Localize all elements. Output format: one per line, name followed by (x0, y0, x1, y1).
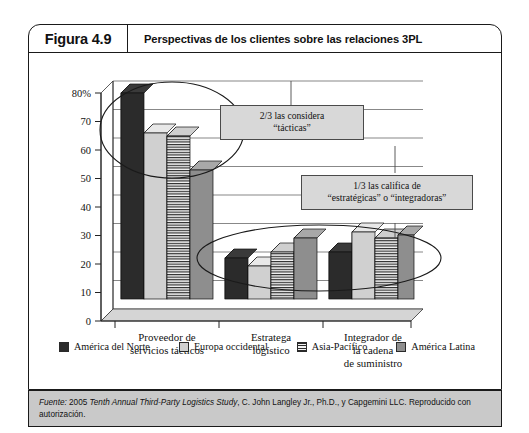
legend-item-america-latina: América Latina (396, 341, 475, 352)
svg-text:70: 70 (81, 116, 92, 127)
svg-text:10: 10 (81, 287, 92, 298)
svg-text:40: 40 (81, 202, 92, 213)
legend-swatch-hatch-icon (297, 342, 307, 352)
figure-title: Perspectivas de los clientes sobre las r… (144, 33, 422, 45)
figure-card: Figura 4.9 Perspectivas de los clientes … (28, 24, 502, 390)
legend-label-america-latina: América Latina (411, 341, 475, 352)
legend-label-america-del-norte: América del Norte (74, 341, 150, 352)
callout-tactical-line1: 2/3 las considera (229, 110, 355, 122)
svg-text:50: 50 (81, 173, 92, 184)
figure-number-label: Figura 4.9 (45, 31, 112, 47)
source-year: 2005 (69, 398, 87, 407)
legend-swatch-light-icon (179, 342, 189, 352)
svg-text:60: 60 (81, 145, 92, 156)
y-axis: 80% 70 60 50 40 30 20 10 0 (72, 88, 101, 327)
svg-text:0: 0 (86, 316, 91, 327)
figure-number-cell: Figura 4.9 (29, 25, 128, 52)
svg-text:20: 20 (81, 259, 92, 270)
legend-label-asia-pacifico: Asia-Pacífico (312, 341, 367, 352)
svg-text:80%: 80% (72, 88, 92, 99)
svg-text:30: 30 (81, 230, 92, 241)
figure-source-note: Fuente: 2005 Tenth Annual Third-Party Lo… (28, 390, 502, 427)
x-axis-ticks (115, 321, 411, 328)
callout-strategic-line2: “estratégicas” o “integradoras” (310, 192, 464, 204)
legend-swatch-dark-icon (59, 342, 69, 352)
chart-body: 80% 70 60 50 40 30 20 10 0 (29, 53, 501, 392)
svg-text:de suministro: de suministro (344, 357, 402, 369)
legend-swatch-medium-icon (396, 342, 406, 352)
chart-legend: América del Norte Europa occidental Asia… (59, 341, 475, 352)
callout-tactical: 2/3 las considera “tácticas” (220, 105, 364, 140)
callout-strategic: 1/3 las califica de “estratégicas” o “in… (301, 175, 473, 210)
legend-item-asia-pacifico: Asia-Pacífico (297, 341, 367, 352)
figure-header: Figura 4.9 Perspectivas de los clientes … (29, 25, 501, 53)
callout-tactical-line2: “tácticas” (229, 122, 355, 134)
figure-title-cell: Perspectivas de los clientes sobre las r… (128, 25, 501, 52)
legend-item-america-del-norte: América del Norte (59, 341, 150, 352)
legend-label-europa-occidental: Europa occidental (194, 341, 268, 352)
callout-strategic-line1: 1/3 las califica de (310, 180, 464, 192)
source-lead-label: Fuente: (39, 398, 67, 407)
legend-item-europa-occidental: Europa occidental (179, 341, 268, 352)
source-work-title: Tenth Annual Third-Party Logistics Study (90, 398, 238, 407)
